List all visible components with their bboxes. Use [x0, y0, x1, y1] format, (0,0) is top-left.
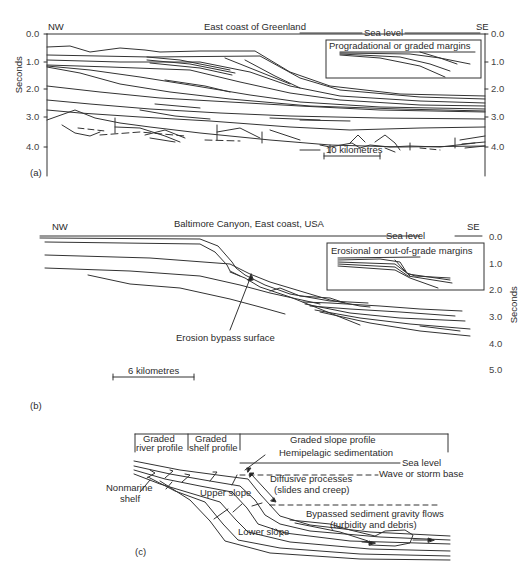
panel-a-ytick-left-0: 0.0 — [26, 29, 39, 39]
diagram-canvas — [0, 0, 531, 564]
header-box-river-line2: river profile — [136, 443, 183, 453]
panel-b-ytick-1: 1.0 — [489, 259, 502, 269]
nonmarine-label: Nonmarine — [106, 483, 152, 493]
panel-a-ytick-right-1: 1.0 — [491, 57, 504, 67]
erosion-bypass-label: Erosion bypass surface — [176, 333, 275, 343]
panel-b-ytick-2: 2.0 — [489, 285, 502, 295]
panel-b-sea-level: Sea level — [386, 231, 425, 241]
panel-a-ytick-left-2: 2.0 — [26, 84, 39, 94]
panel-b-ytick-4: 4.0 — [489, 339, 502, 349]
panel-a-ytick-right-3: 3.0 — [491, 112, 504, 122]
panel-a-se-label: SE — [476, 22, 489, 32]
header-box-slope: Graded slope profile — [290, 435, 376, 445]
panel-a-ytick-left-3: 3.0 — [26, 112, 39, 122]
diffusive-label-2: (slides and creep) — [274, 485, 350, 495]
panel-a-title: East coast of Greenland — [204, 22, 306, 32]
sea-level-label: Sea level — [402, 458, 441, 468]
panel-a-inset-title: Progradational or graded margins — [329, 41, 471, 51]
bypassed-label-2: (turbidity and debris) — [330, 520, 417, 530]
panel-b-nw-label: NW — [52, 222, 68, 232]
panel-b-label: (b) — [30, 401, 42, 411]
panel-a-ytick-left-1: 1.0 — [26, 57, 39, 67]
panel-b-y-axis-label: Seconds — [509, 282, 519, 328]
panel-a-scale-label: 10 kilometres — [326, 145, 383, 155]
panel-b-ytick-3: 3.0 — [489, 312, 502, 322]
panel-a-ytick-right-2: 2.0 — [491, 84, 504, 94]
lower-slope-label: Lower slope — [238, 527, 289, 537]
panel-a-nw-label: NW — [48, 22, 64, 32]
panel-b-inset-title: Erosional or out-of-grade margins — [331, 246, 473, 256]
panel-b-title: Baltimore Canyon, East coast, USA — [174, 219, 324, 229]
panel-a-sea-level: Sea level — [364, 28, 403, 38]
wave-base-label: Wave or storm base — [379, 469, 464, 479]
panel-b-se-label: SE — [467, 222, 480, 232]
shelf-label: shelf — [120, 494, 140, 504]
hemipelagic-label: Hemipelagic sedimentation — [279, 448, 393, 458]
panel-a-ytick-right-0: 0.0 — [491, 29, 504, 39]
panel-a-reflectors — [47, 46, 485, 153]
panel-a-ytick-left-4: 4.0 — [26, 142, 39, 152]
panel-a-label: (a) — [30, 168, 42, 178]
panel-b-ytick-0: 0.0 — [489, 232, 502, 242]
panel-c-label: (c) — [135, 547, 146, 557]
panel-b-ytick-5: 5.0 — [489, 365, 502, 375]
bypassed-label-1: Bypassed sediment gravity flows — [306, 509, 444, 519]
panel-a-y-axis-label: Seconds — [14, 52, 24, 98]
diffusive-label-1: Diffusive processes — [270, 474, 352, 484]
panel-a-ytick-right-4: 4.0 — [491, 142, 504, 152]
panel-b-scale-label: 6 kilometres — [128, 366, 179, 376]
upper-slope-label: Upper slope — [200, 488, 251, 498]
header-box-shelf-line2: shelf profile — [189, 443, 238, 453]
